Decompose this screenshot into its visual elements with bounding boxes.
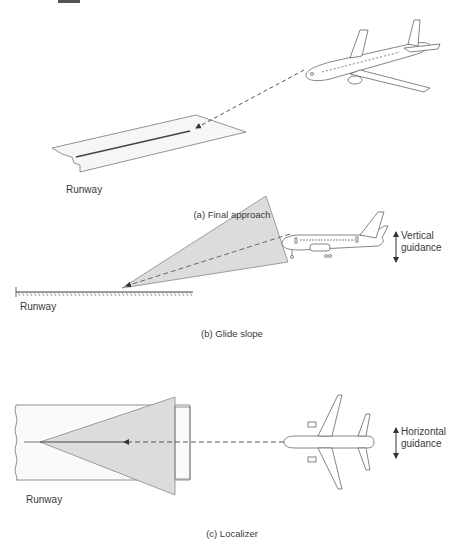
panel-b-runway-ground <box>16 287 193 297</box>
panel-c-caption: (c) Localizer <box>206 528 258 539</box>
panel-a-runway <box>52 115 246 172</box>
panel-c-runway-label: Runway <box>26 494 62 506</box>
panel-b-guidance-label-line1: Vertical <box>401 230 434 242</box>
panel-a-caption: (a) Final approach <box>193 209 270 220</box>
panel-b-caption: (b) Glide slope <box>201 328 263 339</box>
panel-a-approach-path <box>196 70 304 128</box>
top-text-fragment <box>58 0 80 3</box>
panel-c-guidance-label-line2: guidance <box>401 438 442 450</box>
panel-a-runway-label: Runway <box>66 184 102 196</box>
airplane-top-icon <box>284 395 374 489</box>
panel-b-runway-label: Runway <box>20 301 56 313</box>
airplane-side-icon <box>282 212 388 259</box>
diagram-canvas <box>0 0 457 547</box>
panel-c-guidance-label-line1: Horizontal <box>401 426 446 438</box>
panel-b-guidance-label-line2: guidance <box>401 242 442 254</box>
airplane-perspective-icon <box>306 20 440 92</box>
